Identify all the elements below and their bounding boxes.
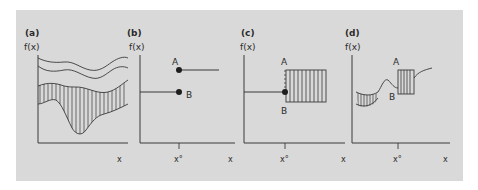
panel-c-point-a-label: A (281, 57, 288, 67)
panel-d-x-tick-label: x° (393, 155, 402, 164)
panel-c-x-axis-label: x (341, 155, 346, 164)
panel-b-y-axis-label: f(x) (129, 42, 145, 52)
panel-c-x-tick-label: x° (280, 155, 289, 164)
panel-b-point-b (176, 89, 182, 95)
panel-b-point-b-label: B (186, 90, 192, 100)
panel-c-label: (c) (241, 28, 255, 38)
panel-b-point-a (176, 67, 182, 73)
panel-a-y-axis-label: f(x) (24, 42, 40, 52)
panel-c-point-b (282, 89, 288, 95)
panel-b-point-a-label: A (172, 57, 179, 67)
figure: (a) f(x) x (b) f(x) A B x° x (c) f(x) A … (0, 0, 478, 190)
panel-b-x-tick-label: x° (174, 155, 183, 164)
panel-b-x-axis-label: x (228, 155, 233, 164)
panel-d-label: (d) (345, 28, 360, 38)
panel-d-y-axis-label: f(x) (345, 42, 361, 52)
panel-c-point-b-label: B (281, 106, 287, 116)
panel-d-point-a-label: A (393, 57, 400, 67)
panel-a-label: (a) (25, 28, 39, 38)
panel-b-label: (b) (127, 28, 142, 38)
panel-d-x-axis-label: x (443, 155, 448, 164)
panel-c-y-axis-label: f(x) (240, 42, 256, 52)
panel-d-point-b-label: B (389, 92, 395, 102)
panel-a-x-axis-label: x (117, 155, 122, 164)
